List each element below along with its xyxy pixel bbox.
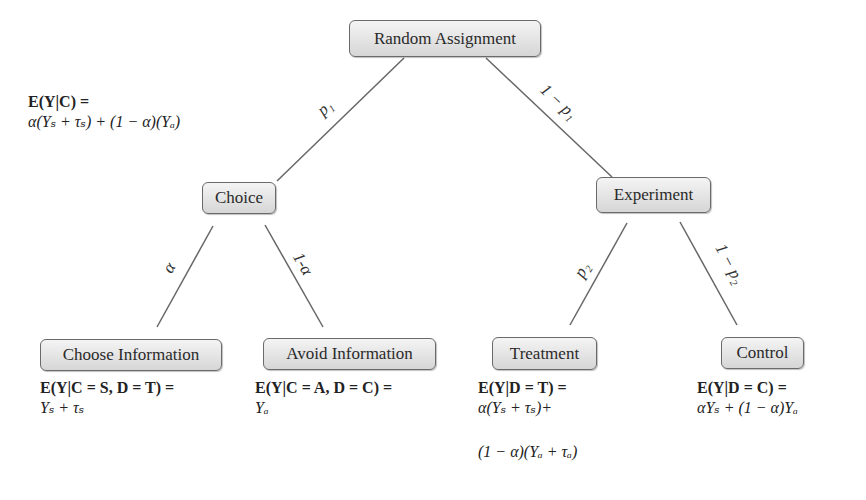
node-label: Treatment xyxy=(510,344,579,364)
formula-treatment: E(Y|D = T) = α(Yₛ + τₛ)+ (1 − α)(Yₐ + τₐ… xyxy=(478,378,577,462)
node-label: Choice xyxy=(215,188,263,208)
node-control: Control xyxy=(721,337,804,369)
formula-choice: E(Y|C) = α(Yₛ + τₛ) + (1 − α)(Yₐ) xyxy=(28,92,180,132)
node-label: Control xyxy=(737,343,789,363)
formula-line: Yₛ + τₛ xyxy=(40,398,174,418)
node-choice: Choice xyxy=(202,182,276,214)
formula-line: α(Yₛ + τₛ) + (1 − α)(Yₐ) xyxy=(28,112,180,132)
formula-avoid-information: E(Y|C = A, D = C) = Yₐ xyxy=(255,378,392,418)
formula-line: α(Yₛ + τₛ)+ xyxy=(478,398,577,418)
formula-control: E(Y|D = C) = αYₛ + (1 − α)Yₐ xyxy=(697,378,798,418)
edge-choice-avoid-info xyxy=(265,225,323,327)
node-experiment: Experiment xyxy=(596,177,711,213)
formula-line: E(Y|D = T) = xyxy=(478,378,577,398)
edge-root-choice xyxy=(277,58,404,181)
node-label: Choose Information xyxy=(63,345,199,365)
node-avoid-information: Avoid Information xyxy=(263,338,436,370)
edge-root-experiment xyxy=(486,58,612,177)
node-random-assignment: Random Assignment xyxy=(349,20,541,57)
formula-line: αYₛ + (1 − α)Yₐ xyxy=(697,398,798,418)
node-label: Avoid Information xyxy=(286,344,413,364)
node-choose-information: Choose Information xyxy=(40,339,222,371)
formula-choose-information: E(Y|C = S, D = T) = Yₛ + τₛ xyxy=(40,378,174,418)
formula-line: E(Y|C) = xyxy=(28,92,180,112)
formula-line: Yₐ xyxy=(255,398,392,418)
formula-line: E(Y|C = S, D = T) = xyxy=(40,378,174,398)
formula-line: E(Y|C = A, D = C) = xyxy=(255,378,392,398)
formula-line: (1 − α)(Yₐ + τₐ) xyxy=(478,442,577,462)
formula-line: E(Y|D = C) = xyxy=(697,378,798,398)
node-label: Random Assignment xyxy=(374,29,516,49)
edges-layer xyxy=(0,0,866,500)
edge-choice-choose-info xyxy=(157,226,213,327)
node-treatment: Treatment xyxy=(492,337,597,370)
node-label: Experiment xyxy=(614,185,693,205)
